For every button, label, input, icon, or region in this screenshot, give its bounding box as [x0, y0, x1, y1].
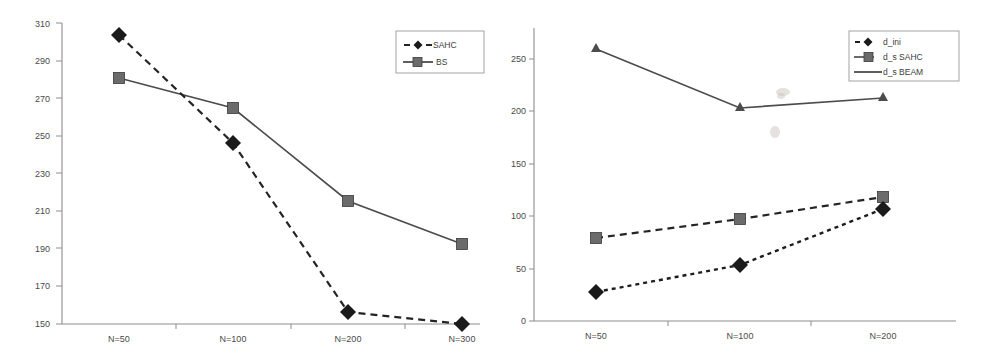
- legend-label-ds-sahc: d_s SAHC: [883, 52, 923, 62]
- left-ytick-190: 190: [35, 244, 50, 254]
- left-xtick-n200: N=200: [335, 334, 362, 344]
- left-xtick-n300: N=300: [449, 334, 476, 344]
- right-x-axis: [534, 321, 956, 326]
- marker-diamond: [111, 27, 127, 43]
- left-ytick-170: 170: [35, 281, 50, 291]
- marker-diamond: [588, 284, 604, 300]
- marker-square: [228, 103, 239, 114]
- legend-label-ds-beam: d_s BEAM: [883, 67, 923, 77]
- right-legend[interactable]: d_ini d_s SAHC d_s BEAM: [849, 31, 959, 81]
- right-chart-svg: 250 200 150 100 50 0 N: [491, 0, 982, 361]
- marker-diamond: [875, 201, 891, 217]
- right-series-ds-sahc: [591, 192, 889, 244]
- left-y-axis: [56, 23, 62, 324]
- marker-square: [114, 73, 125, 84]
- left-ytick-230: 230: [35, 169, 50, 179]
- marker-triangle: [878, 92, 888, 101]
- marker-square: [343, 196, 354, 207]
- left-chart-svg: 310 290 270 250 230 210 190 170 150: [0, 0, 491, 361]
- right-ytick-100: 100: [511, 211, 526, 221]
- right-xtick-n200: N=200: [870, 331, 897, 341]
- right-ytick-50: 50: [516, 264, 526, 274]
- marker-diamond: [340, 304, 356, 320]
- right-ytick-200: 200: [511, 106, 526, 116]
- marker-square: [878, 192, 889, 203]
- left-ytick-250: 250: [35, 131, 50, 141]
- legend-item-ds-sahc[interactable]: d_s SAHC: [854, 52, 923, 62]
- left-x-axis: [62, 324, 480, 329]
- left-ytick-290: 290: [35, 56, 50, 66]
- right-y-axis: [529, 28, 534, 321]
- right-ytick-0: 0: [521, 316, 526, 326]
- marker-diamond: [454, 316, 470, 332]
- right-chart-panel: 250 200 150 100 50 0 N: [491, 0, 982, 361]
- right-xtick-n50: N=50: [585, 331, 607, 341]
- left-ytick-310: 310: [35, 19, 50, 29]
- left-ytick-270: 270: [35, 94, 50, 104]
- marker-triangle: [591, 43, 601, 52]
- figure-root: 310 290 270 250 230 210 190 170 150: [0, 0, 982, 361]
- legend-label-d-ini: d_ini: [883, 37, 901, 47]
- right-xtick-n100: N=100: [727, 331, 754, 341]
- right-ytick-150: 150: [511, 159, 526, 169]
- right-series-ds-beam: [591, 43, 888, 111]
- left-xtick-n100: N=100: [220, 334, 247, 344]
- left-series-bs: [114, 73, 468, 250]
- scan-artifact: [770, 88, 790, 138]
- legend-label-sahc: SAHC: [433, 40, 457, 50]
- left-ytick-210: 210: [35, 206, 50, 216]
- left-xtick-n50: N=50: [108, 334, 130, 344]
- legend-label-bs: BS: [436, 57, 448, 67]
- marker-square: [457, 239, 468, 250]
- marker-diamond: [732, 257, 748, 273]
- left-chart-panel: 310 290 270 250 230 210 190 170 150: [0, 0, 491, 361]
- marker-square: [591, 233, 602, 244]
- left-ytick-150: 150: [35, 319, 50, 329]
- left-legend[interactable]: SAHC BS: [396, 31, 484, 73]
- right-ytick-250: 250: [511, 54, 526, 64]
- marker-square: [735, 214, 746, 225]
